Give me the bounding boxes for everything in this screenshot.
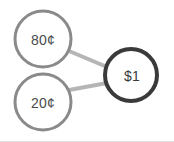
- diagram-canvas: [0, 0, 174, 142]
- part-circle-top[interactable]: [15, 11, 71, 67]
- connector-top-part-to-total: [69, 51, 107, 67]
- connector-bottom-part-to-total: [69, 83, 107, 90]
- part-circle-bottom[interactable]: [15, 74, 71, 130]
- number-bond-diagram: 80¢ 20¢ $1: [0, 0, 174, 142]
- canvas-bottom-edge: [0, 141, 174, 142]
- total-circle[interactable]: [105, 49, 157, 101]
